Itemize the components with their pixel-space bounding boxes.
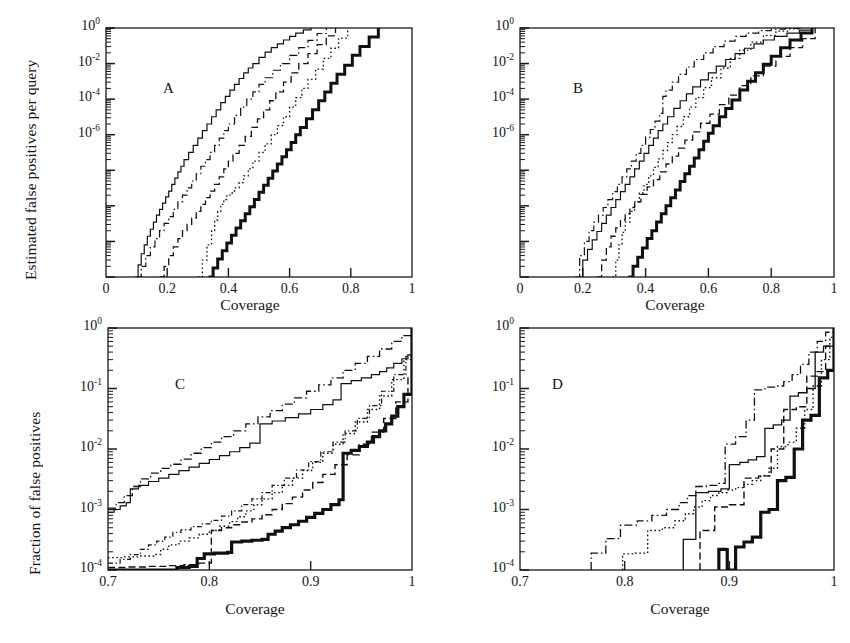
xtick-label: 0.8 bbox=[746, 281, 796, 297]
panel-d-plot bbox=[425, 321, 850, 643]
panel-d bbox=[425, 321, 850, 643]
ytick-label: 10-6 bbox=[52, 125, 100, 141]
ytick-label: 100 bbox=[466, 18, 514, 34]
xtick-label: 0.7 bbox=[83, 574, 133, 590]
figure-root: Estimated false positives per query A Co… bbox=[0, 0, 850, 643]
xtick-label: 0 bbox=[495, 281, 545, 297]
ytick-label: 10-2 bbox=[52, 54, 100, 70]
xtick-label: 0 bbox=[81, 281, 131, 297]
panel-c-plot bbox=[0, 321, 425, 643]
xtick-label: 0.2 bbox=[142, 281, 192, 297]
xtick-label: 1 bbox=[809, 281, 850, 297]
xtick-label: 0.8 bbox=[184, 574, 234, 590]
xtick-label: 0.6 bbox=[265, 281, 315, 297]
panel-a-plot bbox=[0, 0, 425, 321]
xtick-label: 1 bbox=[809, 574, 850, 590]
xtick-label: 1 bbox=[387, 574, 437, 590]
ytick-label: 10-2 bbox=[466, 439, 514, 455]
panel-d-xlabel: Coverage bbox=[590, 600, 770, 618]
xtick-label: 1 bbox=[387, 281, 437, 297]
panel-b-xlabel: Coverage bbox=[585, 296, 765, 314]
panel-b-plot bbox=[425, 0, 850, 321]
xtick-label: 0.4 bbox=[621, 281, 671, 297]
ytick-label: 10-3 bbox=[54, 500, 102, 516]
panel-b bbox=[425, 0, 850, 321]
xtick-label: 0.4 bbox=[203, 281, 253, 297]
ytick-label: 10-4 bbox=[52, 89, 100, 105]
xtick-label: 0.8 bbox=[326, 281, 376, 297]
xtick-label: 0.9 bbox=[704, 574, 754, 590]
xtick-label: 0.8 bbox=[600, 574, 650, 590]
ytick-label: 10-6 bbox=[466, 125, 514, 141]
ytick-label: 100 bbox=[54, 318, 102, 334]
panel-a-xlabel: Coverage bbox=[160, 296, 340, 314]
panel-a-letter: A bbox=[163, 80, 174, 97]
ytick-label: 10-1 bbox=[466, 379, 514, 395]
panel-c-xlabel: Coverage bbox=[165, 600, 345, 618]
panel-c bbox=[0, 321, 425, 643]
xtick-label: 0.7 bbox=[495, 574, 545, 590]
panel-b-letter: B bbox=[573, 80, 583, 97]
ytick-label: 10-2 bbox=[466, 54, 514, 70]
xtick-label: 0.6 bbox=[683, 281, 733, 297]
ytick-label: 10-2 bbox=[54, 439, 102, 455]
ytick-label: 10-1 bbox=[54, 379, 102, 395]
panel-d-letter: D bbox=[552, 376, 563, 393]
xtick-label: 0.9 bbox=[286, 574, 336, 590]
xtick-label: 0.2 bbox=[558, 281, 608, 297]
panel-c-letter: C bbox=[175, 376, 185, 393]
ytick-label: 100 bbox=[466, 318, 514, 334]
ytick-label: 100 bbox=[52, 18, 100, 34]
ytick-label: 10-3 bbox=[466, 500, 514, 516]
ytick-label: 10-4 bbox=[466, 89, 514, 105]
panel-a bbox=[0, 0, 425, 321]
